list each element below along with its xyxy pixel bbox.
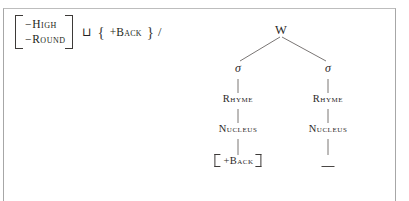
tree-node-nucleus-right: Nucleus: [309, 123, 348, 134]
feature-name: High: [32, 18, 57, 30]
left-bracket-icon: [214, 154, 220, 167]
syllable-tree-diagram: W σ σ Rhyme Rhyme Nucleus Nucleus +Back: [200, 23, 390, 195]
clipped-header-text: [8, 0, 403, 4]
feature-row: −High: [25, 17, 65, 32]
figure-frame: −High −Round ⊔ { +Back } / W σ σ: [3, 8, 396, 201]
tree-node-syllable-right: σ: [325, 61, 331, 76]
feature-row: −Round: [25, 32, 65, 47]
set-feature-label: +Back: [106, 26, 146, 38]
set-close-brace: }: [146, 25, 155, 40]
tree-node-nucleus-left: Nucleus: [219, 123, 258, 134]
tree-branch-lines: [200, 23, 390, 195]
tree-terminal-feature-matrix: +Back: [214, 154, 261, 167]
tree-node-rhyme-left: Rhyme: [223, 93, 253, 104]
terminal-feature-label: +Back: [223, 155, 253, 166]
feature-name: Round: [32, 33, 65, 45]
empty-slot-underscore-icon: [322, 159, 335, 167]
union-operator-symbol: ⊔: [76, 26, 96, 38]
branch-root-to-sigma-left: [240, 37, 280, 61]
branch-root-to-sigma-right: [282, 37, 326, 61]
environment-slash: /: [155, 25, 161, 40]
right-bracket-icon: [256, 154, 262, 167]
input-feature-matrix: −High −Round: [14, 15, 74, 49]
left-bracket-icon: [15, 15, 23, 49]
tree-terminal-empty-slot: [322, 156, 335, 171]
tree-node-word-root: W: [275, 23, 287, 38]
right-bracket-icon: [65, 15, 73, 49]
tree-node-syllable-left: σ: [235, 61, 241, 76]
set-open-brace: {: [96, 25, 105, 40]
terminal-bracketed-matrix: +Back: [214, 154, 261, 167]
phonological-rule-expression: −High −Round ⊔ { +Back } /: [14, 15, 161, 49]
tree-node-rhyme-right: Rhyme: [313, 93, 343, 104]
